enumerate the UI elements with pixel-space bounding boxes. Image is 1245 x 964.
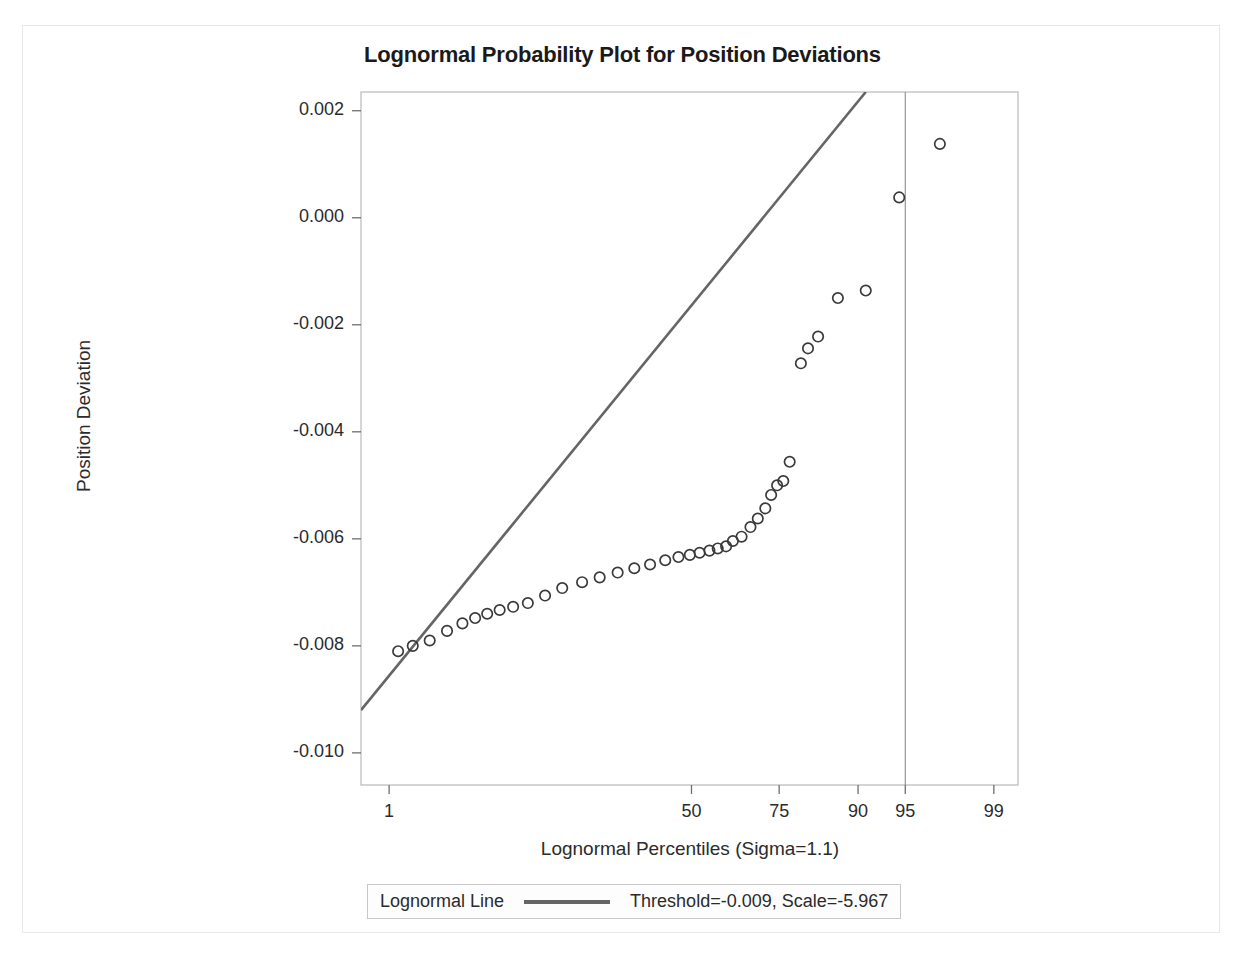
- axis-ticks: [352, 111, 994, 794]
- y-tick-label: -0.006: [234, 527, 344, 548]
- axis-frame: [361, 92, 1018, 785]
- x-tick-label: 50: [661, 801, 721, 822]
- y-tick-label: 0.000: [234, 206, 344, 227]
- x-tick-label: 1: [359, 801, 419, 822]
- legend-parameters: Threshold=-0.009, Scale=-5.967: [630, 891, 888, 912]
- y-tick-label: -0.004: [234, 420, 344, 441]
- legend-line-swatch: [524, 900, 610, 904]
- legend: Lognormal Line Threshold=-0.009, Scale=-…: [367, 884, 901, 919]
- y-tick-label: -0.010: [234, 741, 344, 762]
- data-points: [393, 139, 945, 657]
- x-tick-label: 75: [749, 801, 809, 822]
- y-tick-label: -0.008: [234, 634, 344, 655]
- legend-series-name: Lognormal Line: [380, 891, 504, 912]
- x-tick-label: 99: [964, 801, 1024, 822]
- y-tick-label: 0.002: [234, 99, 344, 120]
- x-tick-label: 95: [875, 801, 935, 822]
- lognormal-fit-line: [361, 92, 866, 710]
- y-tick-label: -0.002: [234, 313, 344, 334]
- plot-area: [0, 0, 1245, 964]
- chart-page: Lognormal Probability Plot for Position …: [0, 0, 1245, 964]
